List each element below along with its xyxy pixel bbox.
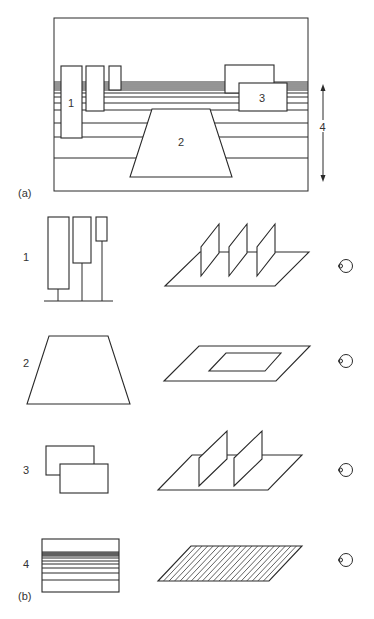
figure-canvas: 1 3 2 4 (a) 1 xyxy=(0,0,374,619)
element-2-label: 2 xyxy=(178,136,184,148)
row-1-label: 1 xyxy=(23,251,29,263)
row-2-trapezoid xyxy=(27,336,130,404)
row-4: 4 (b) xyxy=(18,539,353,602)
eye-icon xyxy=(339,355,353,368)
row-2: 2 xyxy=(23,336,353,404)
row-3-flat-view xyxy=(46,446,108,493)
row-4-3d-view xyxy=(158,546,302,581)
row-2-label: 2 xyxy=(23,357,29,369)
double-arrow-icon xyxy=(321,84,326,182)
eye-icon xyxy=(339,464,353,477)
row-4-flat-view xyxy=(42,539,119,592)
element-4-label: 4 xyxy=(320,121,326,133)
row-1: 1 xyxy=(23,217,353,301)
row-2-3d-view xyxy=(164,346,310,381)
element-1-label: 1 xyxy=(68,97,74,109)
row-3-3d-view xyxy=(158,431,302,490)
part-b-label: (b) xyxy=(18,590,31,602)
row-3-label: 3 xyxy=(23,464,29,476)
row-4-label: 4 xyxy=(23,558,29,570)
part-a: 1 3 2 4 (a) xyxy=(18,18,328,199)
part-a-label: (a) xyxy=(18,187,31,199)
row-3: 3 xyxy=(23,431,353,493)
row-1-flat-view xyxy=(44,217,113,301)
eye-icon xyxy=(339,260,353,273)
row-1-3d-view xyxy=(165,224,309,286)
element-3-label: 3 xyxy=(259,92,265,104)
element-3-rects xyxy=(225,65,287,111)
eye-icon xyxy=(339,554,353,567)
